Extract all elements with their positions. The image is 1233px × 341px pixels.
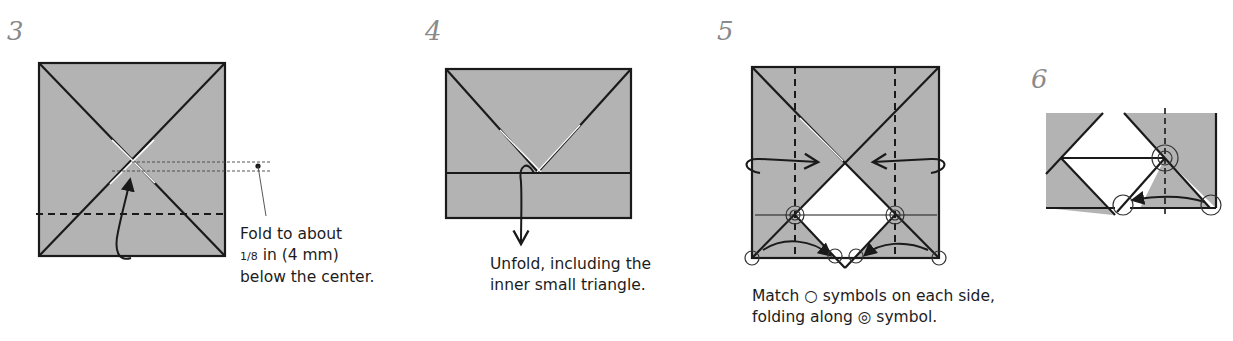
fraction: 1/8 <box>240 250 258 263</box>
step-5-caption: Match ○ symbols on each side, folding al… <box>752 286 995 328</box>
step-4-caption-line-1: Unfold, including the <box>490 254 651 275</box>
step-5-diagram <box>745 67 946 268</box>
step-6-diagram <box>1046 108 1221 215</box>
step-5-caption-line-1: Match ○ symbols on each side, <box>752 286 995 307</box>
step-4-caption: Unfold, including the inner small triang… <box>490 254 651 296</box>
step-3-caption-line-2: 1/8 in (4 mm) <box>240 245 375 267</box>
step-3-caption-line-2-rest: in (4 mm) <box>258 246 339 264</box>
step-3-caption-line-1: Fold to about <box>240 224 375 245</box>
step-3-caption-line-3: below the center. <box>240 267 375 288</box>
step-3-diagram <box>36 63 272 259</box>
step-3-caption: Fold to about 1/8 in (4 mm) below the ce… <box>240 224 375 288</box>
step-4-caption-line-2: inner small triangle. <box>490 275 651 296</box>
step-5-caption-line-2: folding along ◎ symbol. <box>752 307 995 328</box>
step-4-diagram <box>446 69 631 244</box>
